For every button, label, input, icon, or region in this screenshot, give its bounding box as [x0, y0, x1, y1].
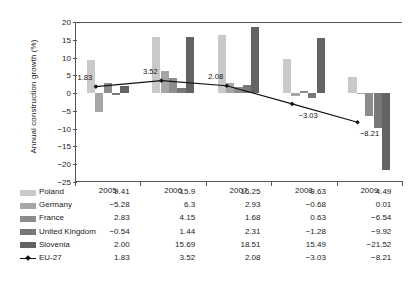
eu27-line-series — [75, 22, 402, 182]
data-label-2006: 3.52 — [143, 66, 158, 75]
legend-swatch-poland — [20, 190, 36, 196]
table-cell: −0.68 — [266, 199, 326, 211]
table-cell: 9.63 — [266, 186, 326, 198]
table-row: France2.834.151.680.63−6.54 — [0, 212, 413, 225]
table-cell: 1.44 — [135, 226, 195, 238]
legend-swatch-germany — [20, 203, 36, 209]
data-label-2008: −3.03 — [299, 110, 318, 119]
table-cell: 2.93 — [201, 199, 261, 211]
plot-area: 20151050−5−10−15−20−25 1.833.522.08−3.03… — [75, 22, 402, 182]
data-label-2005: 1.83 — [78, 72, 93, 81]
table-row: Germany−5.286.32.93−0.680.01 — [0, 199, 413, 212]
table-cell: −6.54 — [331, 212, 391, 224]
table-row: Slovenia2.0015.6918.5115.49−21.52 — [0, 239, 413, 252]
table-cell: 0.63 — [266, 212, 326, 224]
y-tick-label: 20 — [62, 18, 71, 27]
table-cell: 9.41 — [70, 186, 130, 198]
legend-label-poland: Poland — [39, 186, 64, 198]
y-tick-label: 10 — [62, 53, 71, 62]
table-cell: −1.28 — [266, 226, 326, 238]
table-cell: −8.21 — [331, 252, 391, 264]
chart-figure: Annual construction growth (%) 20151050−… — [0, 0, 413, 293]
table-cell: 4.49 — [331, 186, 391, 198]
legend-label-slovenia: Slovenia — [39, 239, 70, 251]
table-cell: −21.52 — [331, 239, 391, 251]
table-cell: −3.03 — [266, 252, 326, 264]
y-axis-title: Annual construction growth (%) — [29, 17, 38, 177]
table-cell: −5.28 — [70, 199, 130, 211]
y-tick-label: 0 — [67, 89, 71, 98]
table-cell: 15.9 — [135, 186, 195, 198]
legend-line-marker-eu-27 — [20, 258, 36, 259]
table-cell: 6.3 — [135, 199, 195, 211]
table-cell: 3.52 — [135, 252, 195, 264]
y-tick-label: −5 — [62, 106, 71, 115]
table-cell: 18.51 — [201, 239, 261, 251]
table-cell: 0.01 — [331, 199, 391, 211]
table-cell: −0.54 — [70, 226, 130, 238]
legend-label-france: France — [39, 212, 64, 224]
table-row: EU-271.833.522.08−3.03−8.21 — [0, 252, 413, 265]
data-label-2009: −8.21 — [360, 129, 379, 138]
table-cell: 16.25 — [201, 186, 261, 198]
table-cell: 1.83 — [70, 252, 130, 264]
legend-swatch-united-kingdom — [20, 229, 36, 235]
table-cell: 15.49 — [266, 239, 326, 251]
legend-label-germany: Germany — [39, 199, 72, 211]
x-axis-line — [75, 181, 402, 182]
y-tick-label: 15 — [62, 35, 71, 44]
data-table: Poland9.4115.916.259.634.49Germany−5.286… — [0, 186, 413, 265]
table-cell: 2.08 — [201, 252, 261, 264]
table-cell: 2.83 — [70, 212, 130, 224]
table-row: United Kingdom−0.541.442.31−1.28−9.92 — [0, 226, 413, 239]
y-tick-label: 5 — [67, 71, 71, 80]
table-row: Poland9.4115.916.259.634.49 — [0, 186, 413, 199]
legend-label-eu-27: EU-27 — [39, 252, 62, 264]
data-label-2007: 2.08 — [208, 71, 223, 80]
table-cell: 2.00 — [70, 239, 130, 251]
table-cell: 4.15 — [135, 212, 195, 224]
y-tick-label: −15 — [57, 142, 71, 151]
legend-swatch-slovenia — [20, 242, 36, 248]
y-tick-label: −10 — [57, 124, 71, 133]
table-cell: −9.92 — [331, 226, 391, 238]
table-cell: 2.31 — [201, 226, 261, 238]
legend-swatch-france — [20, 216, 36, 222]
table-cell: 15.69 — [135, 239, 195, 251]
table-cell: 1.68 — [201, 212, 261, 224]
y-tick-label: −20 — [57, 160, 71, 169]
